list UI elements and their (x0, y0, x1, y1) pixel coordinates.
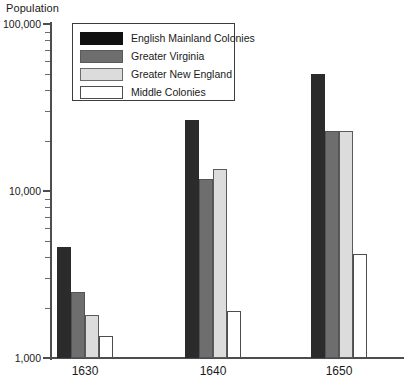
bar-1630-greater-virginia (71, 292, 85, 358)
chart-legend: English Mainland ColoniesGreater Virgini… (72, 23, 235, 101)
bar-1640-english-mainland-colonies (185, 120, 199, 358)
legend-swatch (80, 86, 123, 99)
bar-1640-greater-virginia (199, 179, 213, 358)
legend-label: Greater New England (131, 69, 232, 80)
legend-label: Greater Virginia (131, 51, 204, 62)
bar-1630-english-mainland-colonies (57, 247, 71, 358)
bar-1650-greater-virginia (325, 131, 339, 358)
legend-label: Middle Colonies (131, 87, 206, 98)
x-axis-label-1630: 1630 (72, 364, 99, 378)
legend-item-english-mainland-colonies: English Mainland Colonies (80, 31, 255, 45)
bar-1650-english-mainland-colonies (311, 74, 325, 358)
legend-swatch (80, 68, 123, 81)
legend-label: English Mainland Colonies (131, 33, 255, 44)
legend-item-greater-virginia: Greater Virginia (80, 49, 204, 63)
legend-swatch (80, 32, 123, 45)
population-bar-chart: Population 100,00010,0001,000 1630164016… (0, 0, 413, 391)
bar-1640-greater-new-england (213, 169, 227, 358)
legend-item-middle-colonies: Middle Colonies (80, 85, 206, 99)
bar-1630-greater-new-england (85, 315, 99, 358)
bar-1640-middle-colonies (227, 311, 241, 358)
x-axis-label-1650: 1650 (326, 364, 353, 378)
legend-swatch (80, 50, 123, 63)
bar-1650-greater-new-england (339, 131, 353, 358)
legend-item-greater-new-england: Greater New England (80, 67, 232, 81)
x-axis-label-1640: 1640 (200, 364, 227, 378)
bar-1630-middle-colonies (99, 336, 113, 358)
bar-1650-middle-colonies (353, 254, 367, 358)
